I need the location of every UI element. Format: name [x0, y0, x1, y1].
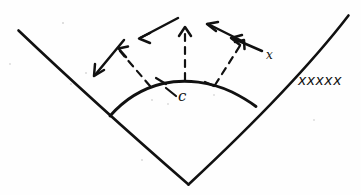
right-wedge-arm: [189, 16, 349, 185]
center-tick-left: [166, 88, 176, 96]
wedge-diagram: c x xxxxx: [0, 0, 361, 195]
dashed-ray-right: [215, 41, 243, 85]
outward-arrow-far-right: [232, 38, 262, 51]
outward-arrow-far-left: [95, 40, 124, 75]
left-wedge-arm: [19, 31, 189, 185]
outward-arrow-upper-left-head: [139, 33, 150, 43]
center-label: c: [178, 87, 187, 105]
dashed-ray-left-head: [119, 47, 129, 58]
sketch-canvas: c x xxxxx: [0, 0, 361, 195]
paper-specks: [9, 22, 315, 161]
right-side-series-label: xxxxx: [297, 72, 342, 88]
right-arrow-tail-label: x: [266, 48, 273, 62]
